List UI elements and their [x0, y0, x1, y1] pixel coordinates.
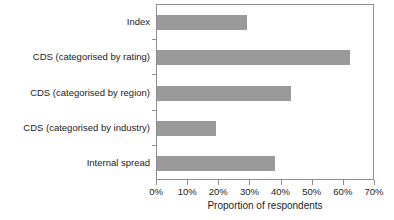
x-axis-tick [187, 180, 188, 185]
x-axis-tick [249, 180, 250, 185]
category-label-cds-rating: CDS (categorised by rating) [0, 51, 150, 62]
x-axis-tick-label: 70% [354, 186, 394, 197]
bar-cds-industry [157, 121, 216, 136]
x-axis-tick [156, 180, 157, 185]
x-axis-tick [218, 180, 219, 185]
x-axis-tick [343, 180, 344, 185]
x-axis-tick [374, 180, 375, 185]
category-label-cds-region: CDS (categorised by region) [0, 87, 150, 98]
bar-cds-rating [157, 50, 350, 65]
bar-cds-region [157, 86, 291, 101]
category-label-cds-industry: CDS (categorised by industry) [0, 122, 150, 133]
x-axis-title: Proportion of respondents [156, 200, 374, 212]
bar-index [157, 15, 247, 30]
plot-area [156, 4, 374, 180]
bar-internal-spread [157, 156, 275, 171]
category-label-internal-spread: Internal spread [0, 157, 150, 168]
x-axis-tick [312, 180, 313, 185]
category-label-index: Index [0, 16, 150, 27]
x-axis-tick [281, 180, 282, 185]
category-axis: Index CDS (categorised by rating) CDS (c… [0, 4, 150, 180]
bar-chart: Index CDS (categorised by rating) CDS (c… [0, 0, 394, 220]
